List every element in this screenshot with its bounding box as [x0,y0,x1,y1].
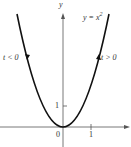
x-axis-arrow-icon [124,125,130,129]
curve-label: y = x2 [83,11,103,22]
left-branch-arrow-icon [25,54,30,60]
parabola-diagram [0,0,131,147]
y-tick-label: 1 [55,102,59,110]
left-branch-label: t < 0 [3,54,19,62]
curve-label-text: y = x [83,13,100,22]
y-axis-arrow-icon [61,13,65,19]
right-branch-label: t > 0 [101,54,117,62]
x-tick-label: 1 [89,131,93,139]
curve-label-exponent: 2 [100,11,103,17]
origin-label: 0 [56,131,60,139]
y-axis-label: y [59,1,63,9]
